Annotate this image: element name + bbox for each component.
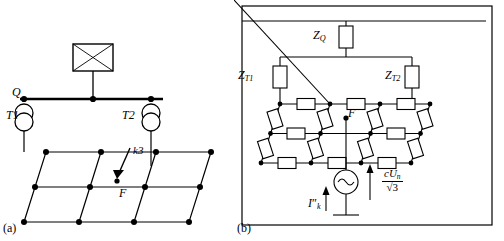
transformer-t2-symbol <box>142 104 160 131</box>
panel-b-diagram <box>234 0 504 241</box>
label-source-voltage: cUn √3 <box>382 168 403 193</box>
label-fault-point-a: F <box>119 186 126 201</box>
fault-point-a <box>114 178 119 183</box>
label-transformer-t2: T2 <box>122 108 135 123</box>
impedance-zt1-box <box>273 66 287 88</box>
fault-current-arrow <box>323 186 330 211</box>
caption-panel-b: (b) <box>237 221 251 236</box>
fault-arrow-k3 <box>113 148 130 179</box>
label-impedance-zt2: ZT2 <box>385 68 400 83</box>
label-impedance-zq: ZQ <box>313 28 326 43</box>
label-node-q: Q <box>12 85 21 100</box>
source-voltage-arrow <box>367 164 374 200</box>
network-mesh <box>24 152 211 222</box>
label-transformer-t1: T1 <box>6 108 19 123</box>
panel-a-diagram <box>0 0 235 241</box>
impedance-zq-box <box>339 26 353 48</box>
label-impedance-zt1: ZT1 <box>238 68 253 83</box>
label-fault-point-b: F <box>348 106 355 121</box>
figure-root: Q T1 T2 k3 F (a) <box>0 0 504 241</box>
caption-panel-a: (a) <box>3 221 16 236</box>
impedance-zt2-box <box>405 66 419 88</box>
label-fault-type-k3: k3 <box>133 144 143 156</box>
label-fault-current: I″k <box>308 196 321 211</box>
